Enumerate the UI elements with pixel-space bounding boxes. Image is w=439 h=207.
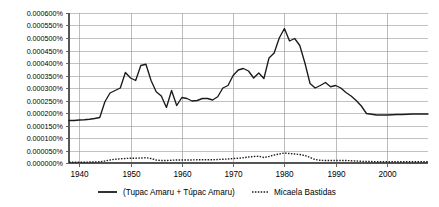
- y-tick-label: 0.000450%: [27, 47, 64, 56]
- y-tick-label: 0.000400%: [27, 59, 64, 68]
- x-tick-label: 1940: [70, 170, 89, 179]
- y-tick-label: 0.000000%: [27, 159, 64, 168]
- ngram-chart: 0.000600%0.000550%0.000500%0.000450%0.00…: [0, 0, 439, 207]
- y-tick-label: 0.000100%: [27, 134, 64, 143]
- x-axis-tick-labels: 1940195019601970198019902000: [70, 170, 397, 179]
- x-tick-label: 1990: [327, 170, 346, 179]
- y-tick-label: 0.000300%: [27, 84, 64, 93]
- x-tick-label: 1970: [224, 170, 243, 179]
- legend-label-tupac-amaru: (Tupac Amaru + Túpac Amaru): [123, 188, 235, 197]
- chart-canvas: 0.000600%0.000550%0.000500%0.000450%0.00…: [0, 0, 439, 207]
- legend-label-micaela-bastidas: Micaela Bastidas: [274, 188, 336, 197]
- series-line-tupac-amaru: [69, 29, 428, 121]
- y-tick-label: 0.000050%: [27, 147, 64, 156]
- horizontal-gridlines: [69, 14, 428, 152]
- y-tick-label: 0.000200%: [27, 109, 64, 118]
- y-axis-tick-labels: 0.000600%0.000550%0.000500%0.000450%0.00…: [27, 9, 64, 168]
- y-tick-label: 0.000250%: [27, 97, 64, 106]
- x-tick-label: 1950: [122, 170, 141, 179]
- x-tick-label: 2000: [378, 170, 397, 179]
- axis-tick-marks: [66, 14, 388, 167]
- series-line-micaela-bastidas: [69, 153, 428, 162]
- y-tick-label: 0.000350%: [27, 72, 64, 81]
- y-tick-label: 0.000600%: [27, 9, 64, 18]
- y-tick-label: 0.000550%: [27, 21, 64, 30]
- x-tick-label: 1960: [173, 170, 192, 179]
- chart-legend: (Tupac Amaru + Túpac Amaru) Micaela Bast…: [98, 188, 336, 197]
- y-tick-label: 0.000150%: [27, 122, 64, 131]
- x-tick-label: 1980: [275, 170, 294, 179]
- y-tick-label: 0.000500%: [27, 34, 64, 43]
